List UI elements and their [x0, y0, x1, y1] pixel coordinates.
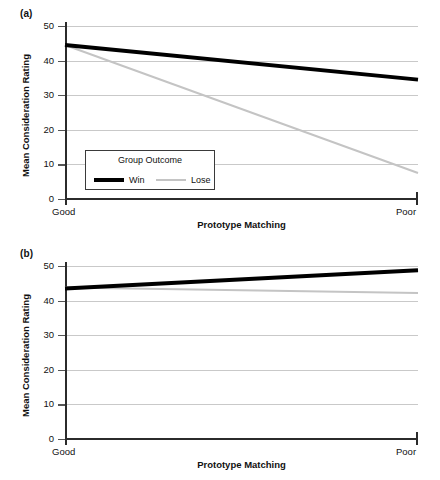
y-tick-label-40: 40: [14, 296, 54, 306]
y-tick-label-20: 20: [14, 365, 54, 375]
lose-line-swatch-icon: [156, 179, 186, 181]
panel-b-x-tick-good: Good: [52, 446, 75, 457]
panel-b-x-tick-poor: Poor: [396, 446, 416, 457]
y-tick-mark-0: [58, 439, 65, 440]
y-tick-mark-30: [58, 335, 65, 336]
y-tick-label-40: 40: [14, 56, 54, 66]
panel-b-series-lines: [65, 266, 418, 439]
panel-a-line-win: [65, 45, 418, 80]
panel-b-line-win: [65, 270, 418, 288]
panel-a-x-tick-good: Good: [52, 206, 75, 217]
y-tick-mark-40: [58, 301, 65, 302]
figure-two-panel-line-charts: (a) Mean Consideration Rating 0102030405…: [0, 0, 440, 480]
panel-a-x-axis-title: Prototype Matching: [65, 219, 418, 230]
y-tick-label-0: 0: [14, 434, 54, 444]
panel-a-legend-title: Group Outcome: [86, 155, 214, 165]
win-line-swatch-icon: [94, 178, 124, 181]
panel-a-legend-entry-win: Win: [94, 171, 145, 189]
y-tick-label-10: 10: [14, 400, 54, 410]
panel-a: (a) Mean Consideration Rating 0102030405…: [0, 0, 440, 240]
panel-b-x-axis-title: Prototype Matching: [65, 459, 418, 470]
panel-a-legend-label-lose: Lose: [191, 175, 211, 185]
panel-b-plot-area: [65, 266, 418, 439]
y-tick-mark-20: [58, 370, 65, 371]
panel-b: (b) Mean Consideration Rating 0102030405…: [0, 240, 440, 480]
panel-b-letter: (b): [20, 248, 33, 259]
y-tick-mark-30: [58, 95, 65, 96]
panel-b-line-lose: [65, 287, 418, 293]
y-tick-label-50: 50: [14, 21, 54, 31]
y-tick-mark-50: [58, 266, 65, 267]
y-tick-mark-0: [58, 199, 65, 200]
panel-a-x-tick-poor: Poor: [396, 206, 416, 217]
y-tick-mark-50: [58, 26, 65, 27]
y-tick-mark-20: [58, 130, 65, 131]
panel-a-legend: Group Outcome Win Lose: [85, 150, 215, 190]
panel-a-legend-row: Win Lose: [86, 171, 214, 189]
panel-a-legend-entry-lose: Lose: [156, 171, 211, 189]
y-tick-label-10: 10: [14, 160, 54, 170]
y-tick-mark-10: [58, 164, 65, 165]
panel-a-letter: (a): [20, 8, 33, 19]
y-tick-label-20: 20: [14, 125, 54, 135]
y-tick-label-30: 30: [14, 330, 54, 340]
y-tick-mark-10: [58, 404, 65, 405]
y-tick-label-30: 30: [14, 90, 54, 100]
y-tick-mark-40: [58, 61, 65, 62]
y-tick-label-0: 0: [14, 194, 54, 204]
panel-a-legend-label-win: Win: [129, 175, 145, 185]
y-tick-label-50: 50: [14, 261, 54, 271]
